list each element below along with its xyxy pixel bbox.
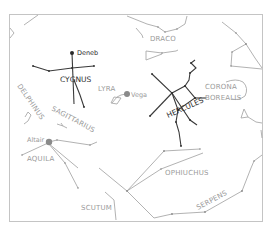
star-chart: DRACO Deneb CYGNUS LYRA Vega	[0, 0, 272, 231]
constellation-scutum: SCUTUM	[81, 192, 116, 220]
label-aquila: AQUILA	[27, 155, 54, 163]
constellation-fragment-top-right	[222, 22, 262, 69]
star-deneb	[70, 51, 74, 55]
label-draco: DRACO	[150, 35, 176, 43]
label-borealis: BOREALIS	[205, 94, 242, 102]
constellation-lyra: LYRA Vega	[98, 85, 147, 104]
constellation-sagittarius: SAGITTARIUS	[50, 105, 97, 135]
label-sagittarius: SAGITTARIUS	[50, 105, 97, 135]
constellation-hercules: HERCULES	[149, 60, 206, 147]
label-hercules: HERCULES	[165, 95, 205, 119]
constellation-fragment-right	[241, 109, 262, 138]
label-lyra: LYRA	[98, 85, 115, 93]
label-deneb: Deneb	[77, 49, 98, 57]
label-scutum: SCUTUM	[81, 204, 112, 212]
constellation-ophiuchus: OPHIUCHUS	[99, 148, 209, 218]
star-altair	[46, 139, 52, 145]
constellation-corona-borealis: CORONA BOREALIS	[205, 80, 247, 102]
constellation-draco: DRACO	[127, 16, 187, 60]
label-vega: Vega	[131, 91, 147, 99]
constellation-fragment-top-left	[10, 15, 38, 38]
label-corona: CORONA	[205, 83, 237, 91]
label-altair: Altair	[27, 136, 45, 144]
constellation-cygnus: Deneb CYGNUS	[32, 49, 98, 108]
star-vega	[124, 91, 130, 97]
label-ophiuchus: OPHIUCHUS	[165, 169, 209, 177]
constellation-aquila: Altair AQUILA	[21, 136, 97, 189]
label-cygnus: CYGNUS	[60, 75, 92, 84]
constellation-serpens: SERPENS	[154, 155, 262, 218]
constellation-delphinus: DELPHINUS	[15, 83, 46, 124]
